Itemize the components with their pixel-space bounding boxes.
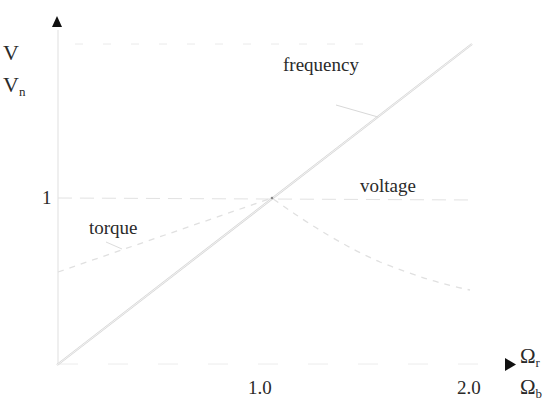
voltage-label: voltage bbox=[360, 176, 416, 195]
x-axis-label-bottom: Ωb bbox=[520, 377, 542, 398]
x-axis-label-bottom-main: Ω bbox=[520, 375, 536, 399]
y-axis-label-bottom-sub: n bbox=[19, 84, 26, 99]
x-axis-label-top: Ωr bbox=[520, 346, 540, 367]
torque-curve bbox=[58, 198, 470, 290]
frequency-label: frequency bbox=[283, 55, 359, 74]
y-axis-label-top: V bbox=[3, 42, 19, 64]
y-axis-arrow-icon bbox=[52, 16, 62, 27]
x-axis-arrow-icon bbox=[505, 358, 516, 371]
y-axis-label-bottom-main: V bbox=[3, 72, 19, 97]
frequency-leader bbox=[336, 105, 378, 117]
x-axis-label-top-main: Ω bbox=[520, 344, 536, 368]
torque-label: torque bbox=[89, 218, 138, 237]
x-tick-2: 2.0 bbox=[457, 378, 481, 397]
x-tick-1: 1.0 bbox=[248, 378, 272, 397]
diagram-canvas bbox=[0, 0, 556, 413]
torque-leader bbox=[106, 242, 122, 249]
y-tick-1: 1 bbox=[42, 188, 52, 207]
x-axis-label-top-sub: r bbox=[536, 355, 540, 370]
x-axis-label-bottom-sub: b bbox=[536, 386, 543, 401]
y-axis-label-bottom: Vn bbox=[3, 74, 25, 96]
